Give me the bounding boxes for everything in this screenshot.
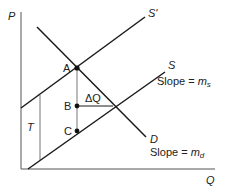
point-b <box>75 104 80 109</box>
supply-demand-tax-diagram: P Q T ΔQ S' S Slope = ms D Slope = md A … <box>0 0 225 190</box>
supply-slope-label: Slope = ms <box>157 75 211 89</box>
point-c <box>75 129 80 134</box>
price-axis-label: P <box>8 10 16 22</box>
delta-q-label: ΔQ <box>85 92 101 104</box>
tax-label: T <box>27 121 35 133</box>
point-a <box>74 65 79 70</box>
demand-curve <box>37 27 146 137</box>
demand-slope-label: Slope = md <box>150 146 205 160</box>
supply-label: S <box>168 59 176 71</box>
point-b-label: B <box>64 100 71 112</box>
supply-shifted-label: S' <box>148 7 158 19</box>
demand-label: D <box>150 133 158 145</box>
quantity-axis-label: Q <box>206 174 215 186</box>
point-a-label: A <box>63 62 71 74</box>
point-c-label: C <box>64 125 72 137</box>
